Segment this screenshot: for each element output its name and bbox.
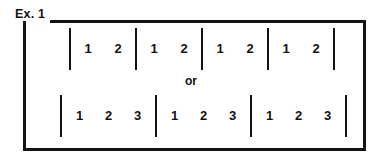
- measure-row-duple: 1 2 1 2 1 2 1 2: [69, 28, 335, 70]
- barline: [333, 28, 335, 70]
- beat-digit: 1: [139, 28, 169, 70]
- beat-digit: 1: [73, 28, 103, 70]
- beat-digit: 2: [235, 28, 265, 70]
- box-border-bottom: [23, 148, 366, 151]
- beat-digit: 2: [284, 95, 313, 137]
- measure: 1 2: [269, 28, 333, 70]
- measure: 1 2 3: [252, 95, 345, 137]
- beat-digit: 1: [160, 95, 189, 137]
- example-figure: Ex. 1 1 2 1 2 1 2 1 2 or 1 2: [0, 0, 382, 158]
- beat-digit: 3: [218, 95, 247, 137]
- beat-digit: 1: [271, 28, 301, 70]
- measure: 1 2: [137, 28, 201, 70]
- beat-digit: 2: [169, 28, 199, 70]
- beat-digit: 3: [123, 95, 152, 137]
- box-border-top: [50, 20, 366, 23]
- measure-row-triple: 1 2 3 1 2 3 1 2 3: [60, 95, 347, 137]
- measure: 1 2: [71, 28, 135, 70]
- beat-digit: 2: [189, 95, 218, 137]
- measure: 1 2 3: [62, 95, 155, 137]
- measure: 1 2 3: [157, 95, 250, 137]
- barline: [345, 95, 347, 137]
- measure: 1 2: [203, 28, 267, 70]
- alternative-connector-label: or: [0, 74, 382, 88]
- beat-digit: 3: [313, 95, 342, 137]
- beat-digit: 2: [94, 95, 123, 137]
- beat-digit: 2: [301, 28, 331, 70]
- beat-digit: 1: [65, 95, 94, 137]
- example-label: Ex. 1: [15, 7, 45, 21]
- beat-digit: 1: [255, 95, 284, 137]
- beat-digit: 1: [205, 28, 235, 70]
- beat-digit: 2: [103, 28, 133, 70]
